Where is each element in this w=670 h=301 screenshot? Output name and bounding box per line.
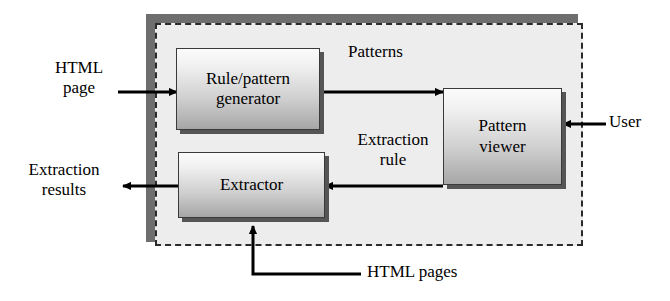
- label-user-text: User: [609, 112, 665, 132]
- diagram-canvas: Rule/pattern generator Pattern viewer Ex…: [0, 0, 670, 301]
- label-html-page-line1: HTML: [40, 58, 118, 78]
- label-html-pages: HTML pages: [367, 262, 493, 282]
- node-pattern-viewer-line1: Pattern: [478, 116, 526, 136]
- label-extraction-rule-line2: rule: [338, 150, 448, 170]
- label-extraction-rule: Extraction rule: [338, 130, 448, 170]
- label-user: User: [609, 112, 665, 132]
- label-html-page: HTML page: [40, 58, 118, 98]
- label-html-pages-text: HTML pages: [367, 262, 493, 282]
- node-pattern-viewer[interactable]: Pattern viewer: [443, 88, 562, 185]
- node-extractor-line1: Extractor: [220, 175, 283, 195]
- label-extraction-results-line2: results: [8, 180, 120, 200]
- node-rule-pattern-generator-line1: Rule/pattern: [206, 69, 290, 89]
- node-rule-pattern-generator-line2: generator: [206, 89, 290, 109]
- node-extractor[interactable]: Extractor: [178, 152, 325, 218]
- node-rule-pattern-generator[interactable]: Rule/pattern generator: [176, 48, 320, 130]
- edge-html-pages-to-extractor: [253, 226, 361, 274]
- label-patterns-text: Patterns: [348, 42, 444, 62]
- label-extraction-results: Extraction results: [8, 160, 120, 200]
- label-patterns: Patterns: [348, 42, 444, 62]
- connector-layer: [0, 0, 670, 301]
- label-extraction-results-line1: Extraction: [8, 160, 120, 180]
- node-pattern-viewer-line2: viewer: [478, 137, 526, 157]
- label-html-page-line2: page: [40, 78, 118, 98]
- label-extraction-rule-line1: Extraction: [338, 130, 448, 150]
